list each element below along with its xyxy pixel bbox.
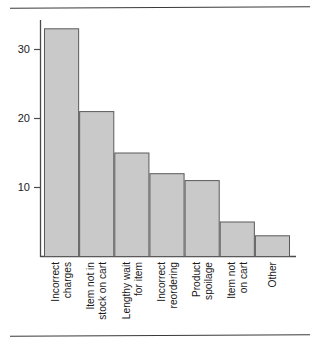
x-axis-label-line: reordering <box>168 262 179 309</box>
x-axis-label-line: Item not in <box>85 262 96 310</box>
x-axis-label-line: on cart <box>238 262 249 293</box>
y-tick-label: 20 <box>18 112 30 124</box>
y-axis-ticks: 102030 <box>18 43 41 193</box>
x-axis-label-line: Lengthy wait <box>121 262 132 319</box>
bar <box>115 153 149 257</box>
x-axis-label-line: Other <box>267 261 278 287</box>
x-axis-label-line: for item <box>133 262 144 296</box>
bar <box>45 29 79 257</box>
bar-series <box>45 29 290 257</box>
bar <box>80 112 114 257</box>
x-axis-label-line: Item not <box>226 262 237 299</box>
bar <box>220 222 254 257</box>
y-tick-label: 30 <box>18 43 30 55</box>
bar-chart-svg: 102030 IncorrectchargesItem not instock … <box>0 0 321 348</box>
bar-chart-plot: 102030 IncorrectchargesItem not instock … <box>0 0 321 348</box>
bar <box>150 174 184 257</box>
x-axis-label-line: charges <box>62 262 73 298</box>
bar <box>185 181 219 257</box>
x-axis-category-labels: IncorrectchargesItem not instock on cart… <box>50 261 278 319</box>
x-axis-label-line: Incorrect <box>156 262 167 302</box>
x-axis-label-line: Incorrect <box>50 262 61 302</box>
x-axis-label-line: stock on cart <box>97 262 108 320</box>
y-tick-label: 10 <box>18 181 30 193</box>
chart-figure: 102030 IncorrectchargesItem not instock … <box>0 0 321 348</box>
x-axis-label-line: spoilage <box>203 262 214 300</box>
bar <box>255 236 289 257</box>
x-axis-label-line: Product <box>191 262 202 297</box>
